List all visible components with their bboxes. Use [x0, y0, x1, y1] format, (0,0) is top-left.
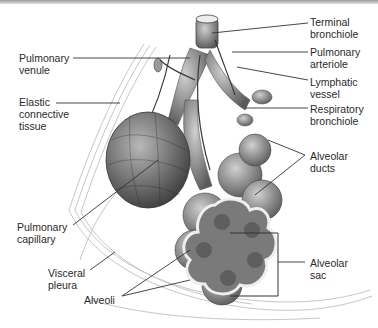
label-elastic-connective-tissue: Elastic connective tissue	[19, 96, 69, 132]
label-visceral-pleura: Visceral pleura	[48, 267, 85, 291]
label-alveolar-sac: Alveolar sac	[310, 257, 348, 281]
label-lymphatic-vessel: Lymphatic vessel	[310, 76, 357, 100]
label-alveoli: Alveoli	[84, 294, 115, 306]
label-pulmonary-venule: Pulmonary venule	[19, 52, 69, 76]
label-alveolar-ducts: Alveolar ducts	[310, 150, 348, 174]
label-terminal-bronchiole: Terminal bronchiole	[310, 16, 358, 40]
label-pulmonary-arteriole: Pulmonary arteriole	[310, 46, 360, 70]
label-pulmonary-capillary: Pulmonary capillary	[17, 221, 67, 245]
label-respiratory-bronchiole: Respiratory bronchiole	[310, 103, 364, 127]
capillary-cluster	[106, 112, 190, 208]
